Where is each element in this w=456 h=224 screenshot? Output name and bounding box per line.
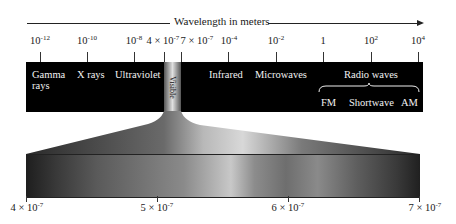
region-am: AM: [401, 97, 418, 108]
region-ultraviolet: Ultraviolet: [115, 69, 161, 80]
tick-label: 102: [364, 34, 378, 46]
visible-funnel: [0, 111, 456, 155]
tick-label: 6 × 10-7: [272, 201, 305, 213]
tick-label: 1: [320, 34, 325, 46]
region-radio-waves: Radio waves: [344, 69, 398, 80]
region-fm: FM: [321, 97, 336, 108]
tick-label: 5 × 10-7: [141, 201, 174, 213]
visible-spectrum-band: [26, 154, 420, 198]
tick-mark: [323, 52, 324, 62]
tick-mark: [371, 52, 372, 62]
region-gamma-rays: Gamma rays: [32, 69, 65, 91]
tick-label: 104: [411, 34, 425, 46]
tick-mark: [181, 52, 182, 62]
tick-mark: [228, 52, 229, 62]
region-visible: Visible: [164, 62, 181, 112]
tick-mark: [164, 52, 165, 62]
tick-label: 10-2: [268, 34, 284, 46]
tick-label: 4 × 10-7: [147, 34, 180, 46]
tick-label: 7 × 10-7: [409, 201, 442, 213]
region-x-rays: X rays: [77, 69, 105, 80]
region-microwaves: Microwaves: [255, 69, 307, 80]
arrow-right-icon: [417, 20, 424, 26]
tick-label: 10-8: [126, 34, 142, 46]
region-shortwave: Shortwave: [349, 97, 394, 108]
tick-label: 4 × 10-7: [11, 201, 44, 213]
brace-icon: [318, 83, 420, 93]
axis-title: Wavelength in meters: [174, 15, 270, 27]
tick-mark: [134, 52, 135, 62]
tick-mark: [87, 52, 88, 62]
tick-label: 7 × 10-7: [181, 34, 214, 46]
tick-label: 10-12: [30, 34, 50, 46]
tick-mark: [418, 52, 419, 62]
axis-arrow-line-left: [27, 23, 170, 24]
tick-mark: [40, 52, 41, 62]
region-infrared: Infrared: [209, 69, 243, 80]
axis-arrow-line-right: [268, 23, 418, 24]
tick-label: 10-10: [77, 34, 97, 46]
tick-label: 10-4: [221, 34, 237, 46]
tick-mark: [276, 52, 277, 62]
